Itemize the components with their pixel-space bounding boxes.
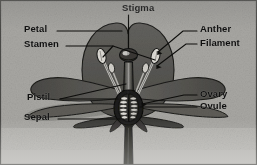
- label-sepal: Sepal: [24, 112, 50, 122]
- label-pistil: Pistil: [27, 92, 50, 102]
- label-stamen: Stamen: [24, 39, 59, 49]
- flower-diagram-figure: Petal Stamen Pistil Sepal Stigma Anther …: [0, 0, 257, 165]
- label-ovule: Ovule: [200, 101, 227, 111]
- label-anther: Anther: [200, 24, 231, 34]
- label-filament: Filament: [200, 38, 240, 48]
- label-stigma: Stigma: [122, 3, 154, 13]
- label-ovary: Ovary: [200, 89, 227, 99]
- label-petal: Petal: [24, 24, 47, 34]
